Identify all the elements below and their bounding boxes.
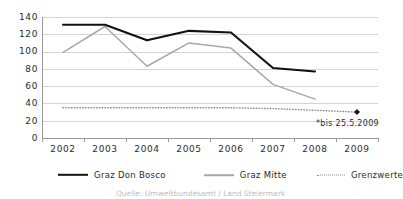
solid-gray-line-icon — [204, 171, 234, 179]
legend-item-graz-don-bosco: Graz Don Bosco — [58, 171, 166, 180]
legend-label-graz-mitte: Graz Mitte — [240, 171, 287, 180]
source-caption-text: Quelle: Umweltbundesamt / Land Steiermar… — [0, 190, 401, 199]
series-line-graz-mitte — [63, 27, 315, 100]
dotted-gray-line-icon — [317, 171, 345, 179]
legend-item-graz-mitte: Graz Mitte — [204, 171, 287, 180]
series-line-grenzwerte — [63, 108, 357, 112]
footnote-annotation: *bis 25.5.2009 — [316, 119, 379, 128]
legend-item-grenzwerte: Grenzwerte — [317, 171, 403, 180]
legend-label-graz-don-bosco: Graz Don Bosco — [94, 171, 166, 180]
source-caption: Quelle: Umweltbundesamt / Land Steiermar… — [0, 190, 401, 199]
chart-legend: Graz Don Bosco Graz Mitte Grenzwerte — [42, 168, 372, 182]
grenzwerte-2009-marker — [354, 109, 360, 115]
series-line-graz-don-bosco — [63, 25, 315, 72]
solid-black-line-icon — [58, 171, 88, 179]
legend-label-grenzwerte: Grenzwerte — [351, 171, 403, 180]
